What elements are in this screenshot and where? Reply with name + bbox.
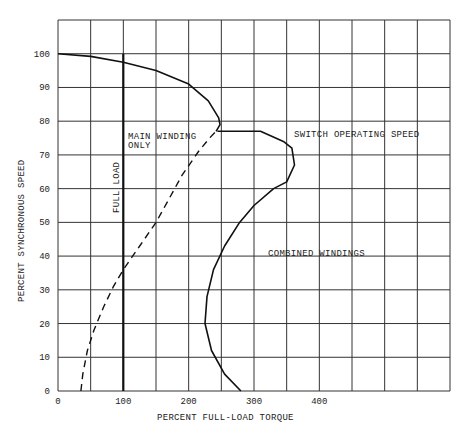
annotation-only: ONLY — [128, 141, 151, 151]
y-tick-label: 100 — [34, 50, 50, 60]
y-tick-label: 0 — [45, 387, 50, 397]
y-tick-label: 80 — [39, 117, 50, 127]
annotation-switch-operating-speed: SWITCH OPERATING SPEED — [294, 130, 419, 140]
y-axis-label: PERCENT SYNCHRONOUS SPEED — [17, 159, 27, 302]
y-tick-label: 20 — [39, 320, 50, 330]
y-tick-label: 50 — [39, 218, 50, 228]
series-line — [81, 131, 216, 391]
x-tick-label: 0 — [55, 397, 60, 407]
y-tick-label: 60 — [39, 185, 50, 195]
y-tick-label: 90 — [39, 83, 50, 93]
annotation-full-load: FULL LOAD — [112, 162, 122, 213]
y-tick-label: 30 — [39, 286, 50, 296]
x-axis-ticks: 0100200300400 — [55, 397, 327, 407]
y-tick-label: 10 — [39, 353, 50, 363]
series-line — [205, 131, 295, 391]
annotation-combined-windings: COMBINED WINDINGS — [268, 249, 365, 259]
x-tick-label: 200 — [181, 397, 197, 407]
series-line — [58, 54, 220, 132]
y-tick-label: 70 — [39, 151, 50, 161]
y-axis-ticks: 0102030405060708090100 — [34, 50, 50, 397]
x-tick-label: 400 — [311, 397, 327, 407]
x-axis-label: PERCENT FULL-LOAD TORQUE — [157, 413, 294, 423]
x-tick-label: 300 — [246, 397, 262, 407]
y-tick-label: 40 — [39, 252, 50, 262]
torque-speed-chart: 0102030405060708090100 0100200300400 PER… — [0, 0, 470, 437]
x-tick-label: 100 — [115, 397, 131, 407]
